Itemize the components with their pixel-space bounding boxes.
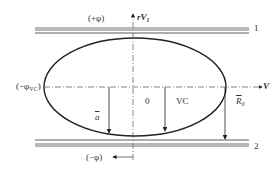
minus-phi-vc-prefix: (−φ bbox=[16, 81, 29, 91]
minus-phi-vc-label: (−φVC) bbox=[16, 82, 41, 92]
band-2 bbox=[35, 140, 249, 147]
zero-label: 0 bbox=[145, 97, 150, 106]
band-1 bbox=[35, 27, 249, 33]
minus-phi-label: (−φ) bbox=[86, 153, 102, 162]
a-bar-label: a bbox=[95, 113, 100, 122]
v-axis-label: V bbox=[263, 82, 269, 91]
band-1-label: 1 bbox=[254, 24, 259, 33]
r0-label: R0 bbox=[236, 97, 245, 107]
vc-label: VC bbox=[176, 97, 189, 106]
rv1-label: rV1 bbox=[137, 13, 150, 23]
band-2-label: 2 bbox=[254, 142, 259, 151]
rv1-sub: 1 bbox=[147, 17, 150, 23]
diagram-canvas bbox=[0, 0, 275, 173]
r0-sub: 0 bbox=[242, 101, 245, 107]
minus-phi-vc-suffix: ) bbox=[38, 81, 41, 91]
plus-phi-label: (+φ) bbox=[88, 14, 104, 23]
minus-phi-vc-sub: VC bbox=[29, 86, 37, 92]
